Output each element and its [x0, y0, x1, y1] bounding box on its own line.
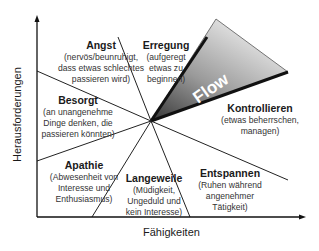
- region-title: Langeweile: [118, 173, 190, 184]
- region-description: (Ruhen während angenehmer Tätigkeit): [190, 180, 270, 213]
- region-description: (an unangenehme Dinge denken, die passie…: [34, 107, 122, 140]
- region-title: Apathie: [40, 160, 128, 171]
- region-title: Besorgt: [34, 95, 122, 106]
- region-besorgt: Besorgt (an unangenehme Dinge denken, di…: [34, 95, 122, 140]
- region-title: Entspannen: [190, 168, 270, 179]
- region-erregung: Erregung (aufgeregt etwas zu beginnen): [130, 40, 202, 85]
- region-entspannen: Entspannen (Ruhen während angenehmer Tät…: [190, 168, 270, 213]
- y-axis-label: Herausforderungen: [11, 82, 23, 162]
- x-axis-label: Fähigkeiten: [143, 226, 200, 238]
- region-description: (aufgeregt etwas zu beginnen): [130, 52, 202, 85]
- region-description: (etwas beherrschen, managen): [205, 115, 315, 137]
- region-kontrollieren: Kontrollieren (etwas beherrschen, manage…: [205, 103, 315, 137]
- region-description: (Abwesenheit von Interesse und Enthusias…: [40, 172, 128, 205]
- region-description: (Müdigkeit, Ungeduld und kein Interesse): [118, 185, 190, 218]
- region-title: Erregung: [130, 40, 202, 51]
- region-langeweile: Langeweile (Müdigkeit, Ungeduld und kein…: [118, 173, 190, 218]
- region-apathie: Apathie (Abwesenheit von Interesse und E…: [40, 160, 128, 205]
- region-title: Kontrollieren: [205, 103, 315, 114]
